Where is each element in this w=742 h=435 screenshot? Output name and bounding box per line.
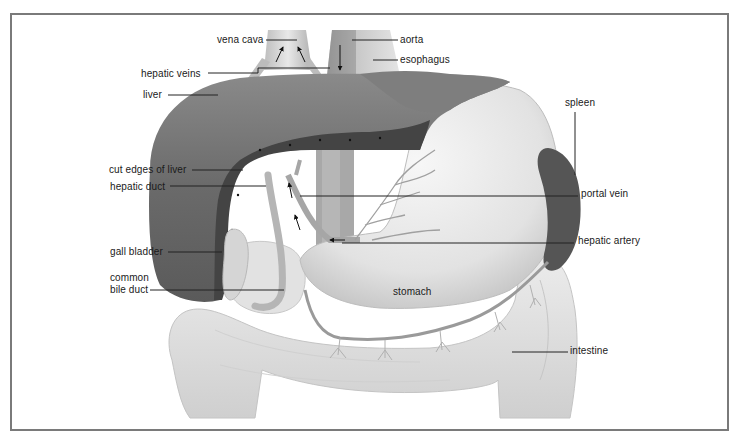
label-hepatic-duct: hepatic duct [110, 181, 165, 192]
label-spleen: spleen [565, 97, 595, 108]
label-aorta: aorta [400, 34, 423, 45]
label-common-bile-duct-line2: bile duct [110, 284, 148, 295]
label-liver: liver [143, 89, 162, 100]
label-stomach: stomach [393, 286, 432, 297]
anatomy-illustration [0, 0, 742, 435]
label-portal-vein: portal vein [581, 188, 628, 199]
label-intestine: intestine [570, 345, 608, 356]
label-gall-bladder: gall bladder [110, 246, 163, 257]
label-hepatic-artery: hepatic artery [578, 235, 640, 246]
label-hepatic-veins: hepatic veins [141, 68, 201, 79]
label-vena-cava: vena cava [217, 34, 264, 45]
label-cut-edges-of-liver: cut edges of liver [109, 164, 186, 175]
label-common-bile-duct-line1: common [110, 272, 149, 283]
label-esophagus: esophagus [400, 54, 450, 65]
